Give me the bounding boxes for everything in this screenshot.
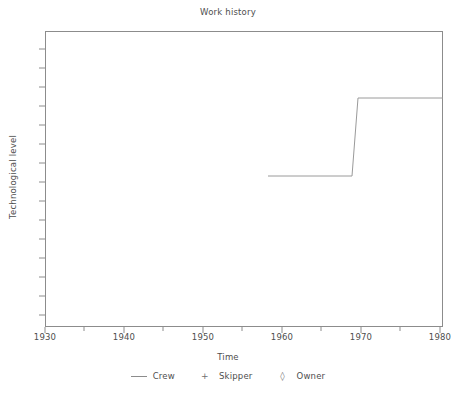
legend-entry-skipper: + Skipper [197, 371, 253, 381]
x-tick-label-1950: 1950 [183, 332, 223, 342]
legend-label-skipper: Skipper [219, 371, 253, 381]
x-tick-label-1980: 1980 [420, 332, 456, 342]
chart-legend: Crew + Skipper ◊ Owner [0, 371, 456, 381]
y-axis-label: Technological level [8, 117, 18, 237]
legend-plus-icon: + [197, 371, 213, 381]
legend-entry-crew: Crew [131, 371, 175, 381]
legend-line-icon [131, 371, 147, 381]
legend-diamond-icon: ◊ [275, 371, 291, 381]
x-tick-label-1930: 1930 [25, 332, 65, 342]
chart-title: Work history [0, 7, 456, 17]
x-tick-label-1960: 1960 [262, 332, 302, 342]
legend-label-owner: Owner [297, 371, 326, 381]
x-tick-label-1940: 1940 [104, 332, 144, 342]
x-axis-label: Time [0, 352, 456, 362]
plot-area [45, 31, 443, 327]
legend-label-crew: Crew [153, 371, 175, 381]
work-history-chart: Work history [0, 0, 456, 397]
legend-entry-owner: ◊ Owner [275, 371, 326, 381]
x-tick-label-1970: 1970 [341, 332, 381, 342]
